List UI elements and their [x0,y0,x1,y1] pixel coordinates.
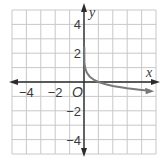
y-tick-label: −4 [66,133,81,148]
curve-arrow-icon [145,88,154,95]
y-axis-label: y [87,5,96,20]
y-axis-up-arrow-icon [81,3,87,12]
curve-path [84,47,150,90]
x-tick-label: −2 [48,85,63,100]
axes [9,3,160,157]
x-axis-left-arrow-icon [9,79,18,85]
function-curve [84,47,154,94]
x-tick-label: −4 [19,85,34,100]
y-axis-down-arrow-icon [81,148,87,157]
y-tick-label: 4 [74,17,81,32]
origin-label: O [72,84,83,100]
graph: x y O −4−242−2−4 [0,0,165,160]
x-axis-label: x [145,65,153,80]
y-tick-label: 2 [74,46,81,61]
y-tick-label: −2 [66,104,81,119]
